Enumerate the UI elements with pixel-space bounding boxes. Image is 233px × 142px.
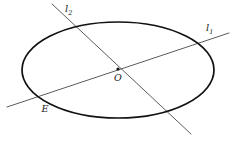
label-point-e: E <box>41 103 49 114</box>
geometry-figure-canvas: l1 l2 O E <box>0 0 233 142</box>
label-line-l1-subscript: 1 <box>209 28 213 36</box>
label-point-o: O <box>114 72 122 83</box>
geometry-figure-svg: l1 l2 O E <box>0 0 233 142</box>
point-o-marker <box>116 67 119 70</box>
label-line-l2-subscript: 2 <box>67 9 72 17</box>
